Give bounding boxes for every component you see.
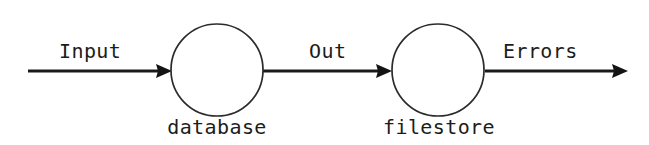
- node-filestore-circle[interactable]: [392, 24, 484, 116]
- errors-arrowhead-icon: [612, 64, 628, 78]
- edge-label-out: Out: [309, 41, 346, 61]
- diagram-canvas: [0, 0, 649, 145]
- out-arrowhead-icon: [376, 64, 392, 78]
- flow-diagram: Input Out Errors database filestore: [0, 0, 649, 145]
- edge-input: [28, 64, 172, 78]
- edge-errors: [485, 64, 628, 78]
- edge-label-errors: Errors: [503, 41, 578, 61]
- edge-label-input: Input: [59, 41, 121, 61]
- node-database-circle[interactable]: [171, 24, 263, 116]
- edge-out: [263, 64, 392, 78]
- node-label-database: database: [167, 117, 267, 137]
- input-arrowhead-icon: [156, 64, 172, 78]
- node-label-filestore: filestore: [383, 117, 491, 137]
